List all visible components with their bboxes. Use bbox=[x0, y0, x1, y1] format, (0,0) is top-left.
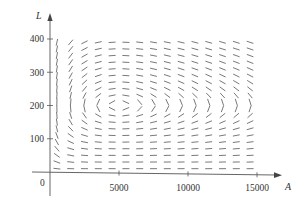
slope-segment bbox=[234, 81, 239, 84]
slope-segment bbox=[178, 135, 184, 136]
slope-segment bbox=[123, 101, 129, 104]
slope-segment bbox=[95, 135, 101, 136]
slope-segment bbox=[192, 128, 198, 129]
slope-field-segments bbox=[54, 39, 253, 169]
slope-segment bbox=[248, 87, 253, 91]
slope-segment bbox=[70, 99, 71, 105]
slope-segment bbox=[57, 112, 58, 118]
slope-segment bbox=[235, 99, 237, 105]
x-axis-arrow-icon bbox=[274, 172, 282, 178]
slope-segment bbox=[123, 115, 129, 116]
slope-segment bbox=[220, 61, 226, 63]
slope-segment bbox=[180, 99, 182, 105]
slope-segment bbox=[247, 41, 253, 43]
slope-segment bbox=[69, 40, 73, 45]
slope-segment bbox=[137, 115, 143, 117]
slope-segment bbox=[56, 66, 57, 72]
slope-segment bbox=[206, 55, 212, 57]
slope-segment bbox=[206, 74, 212, 76]
x-tick-label: 10000 bbox=[176, 183, 200, 193]
slope-segment bbox=[150, 62, 156, 63]
slope-segment bbox=[206, 61, 212, 63]
slope-segment bbox=[165, 114, 170, 117]
slope-segment bbox=[206, 68, 212, 70]
slope-segment bbox=[56, 126, 58, 132]
slope-segment bbox=[150, 48, 156, 49]
slope-segment bbox=[68, 162, 74, 163]
slope-segment bbox=[95, 75, 101, 77]
slope-segment bbox=[56, 39, 57, 45]
slope-segment bbox=[95, 48, 101, 49]
x-axis-label: A bbox=[284, 181, 292, 192]
slope-segment bbox=[81, 148, 87, 149]
slope-segment bbox=[137, 62, 143, 63]
slope-segment bbox=[83, 86, 87, 91]
slope-segment bbox=[82, 67, 87, 70]
slope-segment bbox=[96, 87, 102, 90]
slope-segment bbox=[69, 73, 72, 78]
slope-segment bbox=[235, 106, 237, 112]
slope-segment bbox=[55, 139, 58, 144]
slope-segment bbox=[83, 93, 86, 98]
slope-segment bbox=[82, 54, 87, 57]
slope-segment bbox=[69, 127, 73, 131]
slope-segment bbox=[207, 93, 211, 97]
slope-segment bbox=[234, 74, 240, 77]
slope-segment bbox=[233, 121, 239, 124]
slope-segment bbox=[137, 128, 143, 129]
slope-segment bbox=[219, 142, 225, 143]
slope-segment bbox=[179, 114, 184, 117]
slope-segment bbox=[220, 41, 226, 43]
slope-segment bbox=[151, 88, 157, 90]
slope-segment bbox=[165, 88, 171, 91]
slope-segment bbox=[178, 87, 183, 90]
slope-segment bbox=[82, 61, 87, 64]
slope-segment bbox=[151, 94, 156, 97]
slope-segment bbox=[192, 42, 198, 44]
slope-segment bbox=[206, 114, 211, 118]
slope-segment bbox=[164, 62, 170, 64]
slope-segment bbox=[178, 42, 184, 43]
slope-segment bbox=[164, 75, 170, 77]
slope-segment bbox=[234, 87, 239, 91]
slope-segment bbox=[178, 75, 184, 77]
slope-segment bbox=[247, 61, 253, 63]
slope-segment bbox=[166, 99, 169, 105]
x-axis bbox=[32, 172, 276, 175]
slope-segment bbox=[81, 141, 87, 142]
slope-segment bbox=[179, 93, 184, 97]
slope-segment bbox=[206, 87, 211, 90]
slope-segment bbox=[180, 106, 183, 112]
slope-segment bbox=[137, 75, 143, 76]
slope-segment bbox=[233, 135, 239, 136]
slope-segment bbox=[221, 106, 223, 112]
slope-segment bbox=[248, 113, 253, 117]
slope-segment bbox=[178, 81, 184, 83]
slope-segment bbox=[68, 155, 74, 156]
slope-segment bbox=[82, 74, 87, 78]
slope-segment bbox=[56, 53, 57, 59]
axes: 50001000015000 100200300400 A L 0 bbox=[30, 10, 292, 196]
direction-field-chart: 50001000015000 100200300400 A L 0 bbox=[0, 0, 299, 204]
slope-segment bbox=[70, 113, 72, 119]
slope-segment bbox=[138, 100, 142, 105]
slope-segment bbox=[220, 87, 225, 91]
slope-segment bbox=[220, 74, 226, 77]
slope-segment bbox=[194, 106, 196, 112]
slope-segment bbox=[152, 106, 155, 111]
slope-segment bbox=[220, 114, 225, 118]
slope-segment bbox=[97, 99, 100, 105]
slope-segment bbox=[70, 93, 71, 99]
slope-segment bbox=[138, 107, 142, 112]
slope-segment bbox=[247, 128, 253, 130]
slope-segment bbox=[206, 135, 212, 136]
slope-segment bbox=[56, 119, 57, 125]
slope-segment bbox=[233, 142, 239, 143]
slope-segment bbox=[55, 146, 59, 151]
slope-segment bbox=[95, 68, 101, 70]
slope-segment bbox=[82, 128, 88, 131]
slope-segment bbox=[96, 114, 101, 117]
slope-segment bbox=[70, 86, 72, 92]
slope-segment bbox=[137, 94, 143, 96]
slope-segment bbox=[84, 106, 85, 112]
